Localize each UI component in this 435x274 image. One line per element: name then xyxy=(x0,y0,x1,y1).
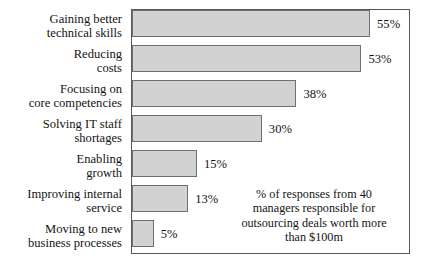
annotation-line: than $100m xyxy=(285,230,343,244)
category-label: Moving to new business processes xyxy=(0,223,122,250)
bar xyxy=(132,45,361,72)
category-label-line: Gaining better xyxy=(50,12,122,26)
category-label-line: technical skills xyxy=(47,26,122,40)
bar-value-label: 15% xyxy=(204,156,227,171)
category-label-line: Focusing on xyxy=(60,82,122,96)
bar-value-label: 55% xyxy=(377,16,400,31)
category-label-line: Improving internal xyxy=(27,187,122,201)
annotation-line: outsourcing deals worth more xyxy=(241,216,386,230)
category-label: Reducing costs xyxy=(0,48,122,75)
bar-chart: Gaining better technical skills Reducing… xyxy=(0,0,435,274)
annotation-line: managers responsible for xyxy=(253,201,376,215)
bar xyxy=(132,10,370,37)
category-label: Solving IT staff shortages xyxy=(0,118,122,145)
category-label-line: Moving to new xyxy=(45,222,122,236)
category-label-line: Solving IT staff xyxy=(43,117,122,131)
bar-value-label: 38% xyxy=(303,86,326,101)
category-label-line: shortages xyxy=(74,131,122,145)
bar xyxy=(132,115,262,142)
bar xyxy=(132,80,296,107)
bar-value-label: 13% xyxy=(195,191,218,206)
category-label-line: Enabling xyxy=(77,152,122,166)
category-label-line: business processes xyxy=(28,236,122,250)
category-label: Gaining better technical skills xyxy=(0,13,122,40)
plot-area: 55% 53% 38% 30% 15% 13% 5% % of respons xyxy=(131,9,410,254)
category-label-line: costs xyxy=(97,61,122,75)
bar-value-label: 30% xyxy=(269,121,292,136)
category-label: Improving internal service xyxy=(0,188,122,215)
bar-value-label: 53% xyxy=(368,51,391,66)
category-label: Enabling growth xyxy=(0,153,122,180)
category-label-line: Reducing xyxy=(74,47,122,61)
category-label-line: core competencies xyxy=(29,96,122,110)
annotation-line: % of responses from 40 xyxy=(256,187,372,201)
bar xyxy=(132,185,188,212)
bar xyxy=(132,150,197,177)
category-label-line: service xyxy=(86,201,122,215)
category-label-column: Gaining better technical skills Reducing… xyxy=(0,9,128,254)
category-label: Focusing on core competencies xyxy=(0,83,122,110)
bar xyxy=(132,220,154,247)
chart-annotation: % of responses from 40 managers responsi… xyxy=(225,187,403,245)
bar-value-label: 5% xyxy=(161,226,178,241)
category-label-line: growth xyxy=(86,166,122,180)
